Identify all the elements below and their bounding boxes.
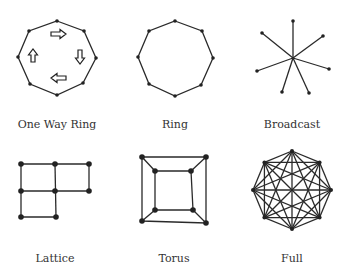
topology-diagram-grid: One Way Ring Ring Broadcast bbox=[0, 0, 348, 278]
lattice-diagram: Lattice bbox=[18, 161, 92, 265]
torus-label: Torus bbox=[158, 252, 189, 265]
full-label: Full bbox=[281, 252, 303, 265]
torus-diagram: Torus bbox=[139, 154, 209, 265]
arrow-right-icon bbox=[51, 30, 66, 39]
arrow-down-icon bbox=[76, 50, 85, 64]
one-way-ring-label: One Way Ring bbox=[18, 118, 97, 131]
lattice-label: Lattice bbox=[36, 252, 75, 265]
arrow-left-icon bbox=[51, 74, 66, 83]
ring-label: Ring bbox=[162, 118, 188, 131]
one-way-ring-diagram: One Way Ring bbox=[16, 19, 98, 131]
broadcast-diagram: Broadcast bbox=[255, 19, 331, 131]
ring-diagram: Ring bbox=[136, 19, 215, 131]
arrow-up-icon bbox=[29, 49, 38, 62]
broadcast-label: Broadcast bbox=[264, 118, 321, 131]
full-mesh-diagram: Full bbox=[251, 149, 333, 265]
